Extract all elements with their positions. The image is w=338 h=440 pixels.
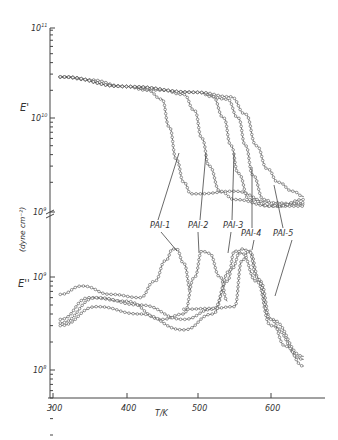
data-point-marker [166,318,169,321]
data-point-marker [131,296,134,299]
data-point-marker [76,311,79,314]
data-point-marker [184,183,187,186]
data-point-marker [258,192,261,195]
data-point-marker [160,267,163,270]
data-point-marker [77,302,80,305]
data-point-marker [110,293,113,296]
ytick-1e9-lower: 109 [33,271,46,282]
data-point-marker [194,275,197,278]
data-point-marker [83,309,86,312]
data-point-marker [63,321,66,324]
data-point-marker [111,307,114,310]
data-point-marker [239,265,242,268]
data-point-marker [235,198,238,201]
data-point-marker [99,305,102,308]
data-point-marker [145,304,148,307]
data-point-marker [242,142,245,145]
data-point-marker [59,324,62,327]
data-point-marker [199,135,202,138]
data-point-marker [134,85,137,88]
data-point-marker [179,318,182,321]
data-point-marker [287,338,290,341]
data-point-marker [67,76,70,79]
data-point-marker [281,327,284,330]
data-point-marker [95,296,98,299]
data-point-marker [292,190,295,193]
data-point-marker [199,312,202,315]
data-point-marker [135,296,138,299]
data-point-marker [143,295,146,298]
data-point-marker [200,91,203,94]
data-point-marker [171,136,174,139]
data-point-marker [253,141,256,144]
data-point-marker [212,192,215,195]
data-point-marker [260,286,263,289]
data-point-marker [263,163,266,166]
data-point-marker [251,137,254,140]
data-point-marker [90,286,93,289]
data-point-marker [230,264,233,267]
data-point-marker [251,133,254,136]
data-point-marker [217,189,220,192]
data-point-marker [220,291,223,294]
data-point-marker [204,146,207,149]
data-point-marker [162,100,165,103]
data-point-marker [166,325,169,328]
data-point-marker [236,254,239,257]
data-point-marker [175,317,178,320]
data-point-marker [204,150,207,153]
data-point-marker [116,300,119,303]
data-point-marker [140,313,143,316]
data-point-marker [263,299,266,302]
data-point-marker [178,328,181,331]
ytick-1e10: 1010 [31,112,48,123]
data-point-marker [183,263,186,266]
data-point-marker [255,180,258,183]
data-point-marker [252,196,255,199]
data-point-marker [267,199,270,202]
data-point-marker [264,307,267,310]
data-point-marker [248,157,251,160]
data-point-marker [183,318,186,321]
data-point-marker [208,307,211,310]
data-point-marker [211,169,214,172]
data-point-marker [223,293,226,296]
data-point-marker [119,310,122,313]
data-point-marker [262,295,265,298]
data-point-marker [178,164,181,167]
data-point-marker [225,121,228,124]
data-point-marker [226,271,229,274]
data-point-marker [233,97,236,100]
data-point-marker [102,292,105,295]
data-point-marker [216,307,219,310]
data-point-marker [224,275,227,278]
data-point-marker [260,200,263,203]
data-point-marker [227,137,230,140]
data-point-marker [245,196,248,199]
data-point-marker [99,296,102,299]
data-point-marker [243,199,246,202]
data-point-marker [285,345,288,348]
curve-pai-3 [60,77,303,206]
data-point-marker [75,306,78,309]
data-point-marker [237,104,240,107]
data-point-marker [278,181,281,184]
data-point-marker [268,169,271,172]
data-point-marker [240,261,243,264]
data-point-marker [232,149,235,152]
data-point-marker [294,200,297,203]
data-point-marker [202,310,205,313]
data-point-marker [241,180,244,183]
data-point-marker [250,129,253,132]
data-point-marker [199,192,202,195]
data-point-marker [132,312,135,315]
data-point-marker [128,303,131,306]
data-point-marker [186,186,189,189]
data-point-marker [103,306,106,309]
data-point-marker [241,112,244,115]
data-point-marker [285,334,288,337]
data-point-marker [174,328,177,331]
data-point-marker [192,316,195,319]
data-point-marker [104,84,107,87]
data-point-marker [265,311,268,314]
